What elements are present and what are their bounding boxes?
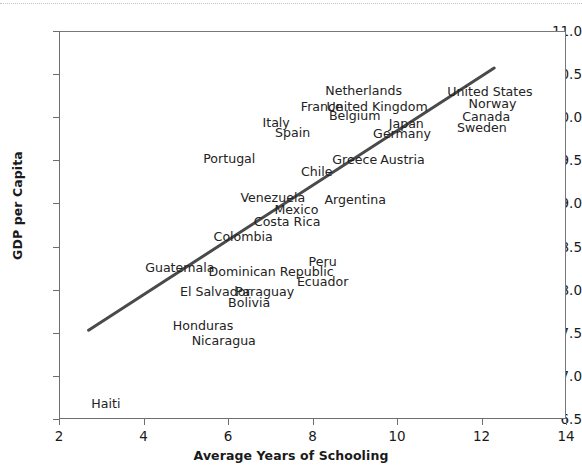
country-label: Costa Rica: [254, 215, 321, 228]
x-tick-mark: [566, 419, 567, 425]
country-label: Germany: [373, 127, 431, 140]
country-label: Portugal: [203, 152, 255, 165]
x-tick-label: 14: [557, 428, 574, 444]
x-tick-label: 2: [55, 428, 64, 444]
x-tick-mark: [313, 419, 314, 425]
x-tick-mark: [228, 419, 229, 425]
country-label: Sweden: [457, 121, 507, 134]
country-label: Greece: [332, 154, 377, 167]
x-tick-label: 6: [224, 428, 233, 444]
x-axis-title: Average Years of Schooling: [0, 448, 582, 463]
country-label: Ecuador: [297, 276, 348, 289]
country-label: Colombia: [214, 231, 273, 244]
country-label: Nicaragua: [192, 334, 256, 347]
country-label: Honduras: [173, 320, 234, 333]
x-tick-label: 12: [473, 428, 490, 444]
x-tick-mark: [397, 419, 398, 425]
x-tick-label: 8: [308, 428, 317, 444]
x-tick-label: 10: [388, 428, 405, 444]
x-tick-label: 4: [139, 428, 148, 444]
country-label: Austria: [380, 154, 425, 167]
country-label: Bolivia: [228, 297, 270, 310]
country-label: Guatemala: [145, 262, 214, 275]
scatter-plot-figure: 6.57.07.58.08.59.09.510.010.511.0 Nether…: [0, 0, 582, 471]
country-label: Spain: [275, 126, 310, 139]
country-label: Belgium: [329, 110, 381, 123]
y-axis-title: GDP per Capita: [10, 126, 25, 286]
country-label: Chile: [301, 166, 333, 179]
x-tick-mark: [59, 419, 60, 425]
x-tick-mark: [144, 419, 145, 425]
x-tick-mark: [482, 419, 483, 425]
country-label: Netherlands: [325, 85, 402, 98]
page-edge-artifact: [0, 3, 582, 5]
country-label: Haiti: [91, 398, 120, 411]
country-label: Argentina: [324, 194, 385, 207]
